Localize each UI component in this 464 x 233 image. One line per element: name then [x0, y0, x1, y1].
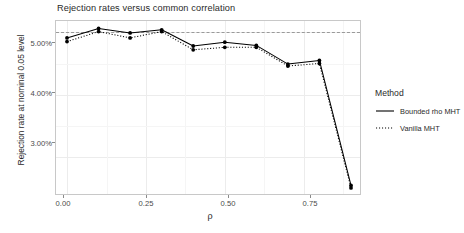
- series-line-bounded-rho-mht: [67, 29, 351, 186]
- x-tick-mark: [228, 195, 229, 198]
- data-point: [286, 64, 290, 68]
- x-tick-label: 0.75: [303, 199, 318, 208]
- legend-item-bounded-rho-mht[interactable]: Bounded rho MHT: [375, 105, 463, 117]
- x-tick-label: 0.50: [221, 199, 236, 208]
- y-tick-label: 5.00%: [30, 39, 52, 48]
- x-axis-title: ρ: [0, 211, 420, 221]
- x-tick-label: 0.25: [139, 199, 154, 208]
- y-axis-title: Rejection rate at nominal 0.05 level: [16, 15, 26, 185]
- x-tick-label: 0.00: [56, 199, 71, 208]
- x-tick-mark: [63, 195, 64, 198]
- data-point: [160, 30, 164, 34]
- data-point: [223, 45, 227, 49]
- series-layer: [56, 21, 361, 195]
- legend-label: Vanilla MHT: [400, 124, 440, 133]
- data-point: [128, 36, 132, 40]
- data-point: [191, 48, 195, 52]
- data-point: [65, 36, 69, 40]
- chart-title: Rejection rates versus common correlatio…: [57, 3, 235, 13]
- chart-root: Rejection rates versus common correlatio…: [0, 0, 464, 233]
- legend-title: Method: [375, 88, 463, 98]
- data-point: [65, 40, 69, 44]
- data-point: [349, 186, 353, 190]
- series-line-vanilla-mht: [67, 32, 351, 188]
- data-point: [254, 45, 258, 49]
- legend-key-dotted-line-icon: [375, 123, 395, 133]
- legend-item-vanilla-mht[interactable]: Vanilla MHT: [375, 122, 463, 134]
- data-point: [97, 30, 101, 34]
- x-tick-mark: [310, 195, 311, 198]
- legend-key-solid-line-icon: [375, 106, 395, 116]
- data-point: [128, 31, 132, 35]
- y-tick-label: 3.00%: [30, 139, 52, 148]
- legend: Method Bounded rho MHT Vanilla MHT: [375, 88, 463, 139]
- data-point: [223, 40, 227, 44]
- legend-label: Bounded rho MHT: [400, 107, 460, 116]
- data-point: [318, 62, 322, 66]
- y-tick-label: 4.00%: [30, 89, 52, 98]
- x-tick-mark: [146, 195, 147, 198]
- plot-panel: [55, 20, 361, 195]
- data-point: [191, 44, 195, 48]
